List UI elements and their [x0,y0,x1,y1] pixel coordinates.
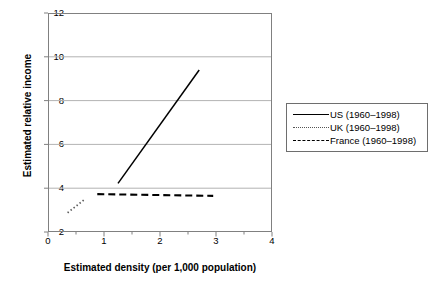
y-axis-title: Estimated relative income [22,21,33,211]
x-axis-title: Estimated density (per 1,000 population) [48,262,272,273]
y-tick-marks [44,13,48,232]
chart-legend: US (1960–1998) UK (1960–1998) France (19… [286,103,428,152]
legend-label-uk: UK (1960–1998) [329,122,400,133]
axis-tick-marks [40,13,280,253]
legend-line-solid-icon [293,109,329,121]
plot-area [48,13,272,232]
legend-item-us: US (1960–1998) [287,108,427,121]
x-tick-marks [48,232,272,237]
legend-item-uk: UK (1960–1998) [287,121,427,134]
legend-item-france: France (1960–1998) [287,134,427,147]
legend-line-dashed-icon [293,135,329,147]
legend-label-france: France (1960–1998) [329,135,416,146]
chart-figure: Estimated relative income Estimated dens… [0,0,434,288]
legend-line-dotted-icon [293,122,329,134]
legend-label-us: US (1960–1998) [329,109,400,120]
